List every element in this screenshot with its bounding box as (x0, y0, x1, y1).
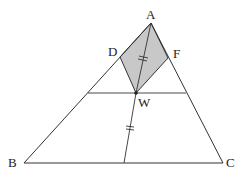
segment-w-to-bc (124, 93, 136, 163)
label-d: D (108, 44, 117, 59)
label-c: C (226, 155, 235, 170)
label-b: B (8, 155, 17, 170)
shaded-quadrilateral-adwf (120, 23, 168, 93)
triangle-diagram: A D F W B C (0, 0, 245, 173)
label-w: W (138, 95, 151, 110)
label-f: F (173, 46, 180, 61)
label-a: A (146, 7, 156, 22)
